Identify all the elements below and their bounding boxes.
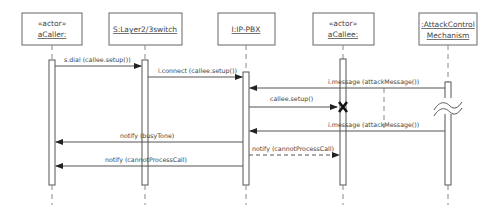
participant-callee: «actor» aCallee: — [313, 13, 374, 45]
participant-name: aCallee: — [328, 30, 358, 39]
participant-pbx: I:IP-PBX — [218, 13, 275, 45]
message-label: i.message (attackMessage()) — [328, 121, 419, 129]
activation-caller — [49, 60, 55, 185]
activation-attack — [445, 82, 451, 185]
message-label: i.message (attackMessage()) — [328, 78, 419, 86]
participant-attack-control: :AttackControl Mechanism — [419, 13, 477, 45]
activation-pbx — [243, 72, 249, 185]
stereotype-label: «actor» — [38, 19, 67, 28]
participant-caller: «actor» aCaller: — [22, 13, 82, 45]
participant-name: I:IP-PBX — [232, 25, 261, 34]
message-notify-caller: notify (cannotProcessCall) — [56, 156, 243, 166]
message-label: callee.setup() — [270, 95, 313, 103]
participant-box — [313, 13, 374, 45]
participant-name-line2: Mechanism — [427, 31, 470, 40]
time-break-icon — [433, 98, 463, 116]
message-notify-busytone: notify (busyTone) — [56, 132, 243, 142]
message-label: notify (cannotProcessCall) — [105, 156, 187, 164]
message-label: i.connect (callee.setup()) — [158, 67, 237, 75]
participant-name: aCaller: — [38, 30, 67, 39]
participant-box — [22, 13, 82, 45]
participant-name-line1: :AttackControl — [421, 20, 475, 29]
message-s-dial: s.dial (callee.setup()) — [55, 56, 141, 66]
message-label: s.dial (callee.setup()) — [64, 56, 131, 64]
message-notify-callee: notify (cannotProcessCall) — [249, 145, 339, 155]
message-label: notify (busyTone) — [120, 132, 174, 140]
participant-box — [419, 13, 477, 45]
participant-name: S:Layer2/3switch — [113, 25, 177, 34]
message-callee-setup: callee.setup() — [249, 95, 337, 107]
sequence-diagram: «actor» aCaller: S:Layer2/3switch I:IP-P… — [0, 0, 501, 213]
message-attack-1: i.message (attackMessage()) — [250, 78, 445, 88]
stereotype-label: «actor» — [329, 19, 358, 28]
message-i-connect: i.connect (callee.setup()) — [148, 67, 242, 77]
message-attack-2: i.message (attackMessage()) — [250, 121, 445, 131]
participant-switch: S:Layer2/3switch — [109, 13, 182, 45]
message-label: notify (cannotProcessCall) — [252, 145, 334, 153]
